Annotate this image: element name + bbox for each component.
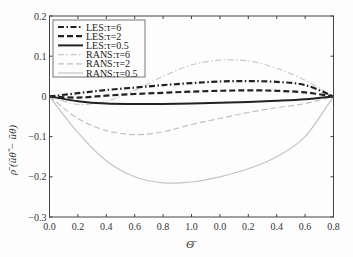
y-tick-label: 0 [42, 91, 47, 102]
x-tick-label: 0.0 [43, 221, 56, 232]
y-tick-label: 0.2 [34, 11, 47, 22]
x-tick-label: 0.4 [270, 221, 283, 232]
x-tick-label: 0.8 [157, 221, 170, 232]
x-tick-label: 0.6 [299, 221, 312, 232]
x-tick-label: 1.0 [185, 221, 198, 232]
line-chart: 0.00.20.40.60.81.00.00.20.40.60.80.20.10… [0, 0, 353, 257]
x-tick-label: 0.6 [128, 221, 141, 232]
y-tick-label: 0.1 [34, 51, 47, 62]
y-tick-label: −0.1 [28, 131, 46, 142]
legend: LES:τ=6LES:τ=2LES:τ=0.5RANS:τ=6RANS:τ=2R… [53, 20, 145, 79]
y-tick-label: −0.2 [28, 171, 46, 182]
x-tick-label: 0.8 [327, 221, 340, 232]
y-tick-label: −0.3 [28, 212, 46, 223]
x-tick-label: 0.2 [72, 221, 85, 232]
series-les-6 [50, 81, 334, 96]
x-axis-label: Θ̄ [186, 238, 197, 250]
series-les-0.5 [50, 96, 334, 104]
x-tick-label: 0.0 [214, 221, 227, 232]
x-tick-label: 0.4 [100, 221, 113, 232]
series-rans-0.5 [50, 96, 334, 183]
x-tick-label: 0.2 [242, 221, 255, 232]
y-axis-label: ρ̄ (ũθ̃ − ũθ) [6, 125, 19, 176]
legend-label: RANS:τ=0.5 [86, 68, 138, 79]
